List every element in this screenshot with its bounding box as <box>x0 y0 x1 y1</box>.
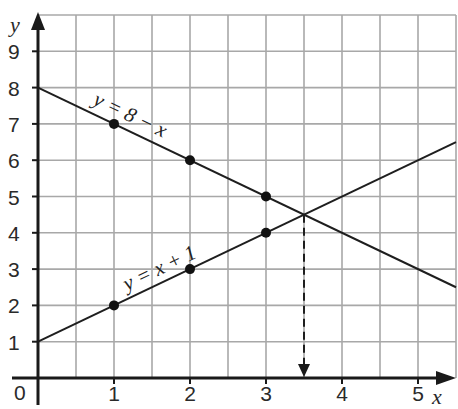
grid <box>38 15 456 378</box>
line-graph: 12345678912345 y x 0 y = 8 − x y = x + 1 <box>0 0 458 409</box>
data-point <box>185 155 195 165</box>
y-tick-label: 4 <box>8 222 20 245</box>
y-tick-label: 6 <box>8 149 20 172</box>
y-tick-label: 8 <box>8 77 20 100</box>
arrow-down-icon <box>298 364 310 377</box>
line-label-y-eq-8-minus-x: y = 8 − x <box>88 86 172 143</box>
x-tick-label: 4 <box>336 382 348 405</box>
y-tick-label: 1 <box>8 331 20 354</box>
y-tick-label: 2 <box>8 294 20 317</box>
data-point <box>261 192 271 202</box>
data-point <box>261 228 271 238</box>
series-line <box>38 142 456 342</box>
x-tick-label: 5 <box>412 382 424 405</box>
axis-ticks: 12345678912345 <box>8 40 424 405</box>
y-tick-label: 3 <box>8 258 20 281</box>
y-tick-label: 7 <box>8 113 20 136</box>
data-point <box>109 300 119 310</box>
axes <box>12 12 456 405</box>
origin-label: 0 <box>14 381 26 404</box>
x-axis-label: x <box>431 384 442 409</box>
x-tick-label: 2 <box>184 382 196 405</box>
series-line <box>38 88 456 288</box>
y-tick-label: 5 <box>8 186 20 209</box>
x-tick-label: 1 <box>108 382 120 405</box>
y-tick-label: 9 <box>8 40 20 63</box>
x-tick-label: 3 <box>260 382 272 405</box>
y-axis-label: y <box>8 12 20 37</box>
x-axis-arrow-icon <box>436 371 456 385</box>
series-lines <box>38 88 456 342</box>
